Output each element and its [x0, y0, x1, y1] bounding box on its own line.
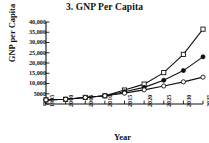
plot-area	[0, 0, 209, 143]
data-point	[83, 95, 87, 99]
data-point	[201, 55, 205, 59]
data-point	[162, 84, 166, 88]
data-point	[181, 52, 185, 56]
data-point	[103, 94, 107, 98]
chart-figure: 3. GNP Per Capita GNP per Capita 0500010…	[0, 0, 209, 143]
x-axis-label: Year	[40, 132, 205, 142]
data-point	[44, 98, 48, 102]
data-point	[181, 69, 185, 73]
data-point	[162, 78, 166, 82]
data-point	[64, 97, 68, 101]
data-point	[201, 27, 205, 31]
data-point	[122, 91, 126, 95]
data-point	[201, 75, 205, 79]
series-layer	[44, 27, 205, 102]
data-point	[162, 71, 166, 75]
data-point	[142, 88, 146, 92]
data-point	[181, 80, 185, 84]
